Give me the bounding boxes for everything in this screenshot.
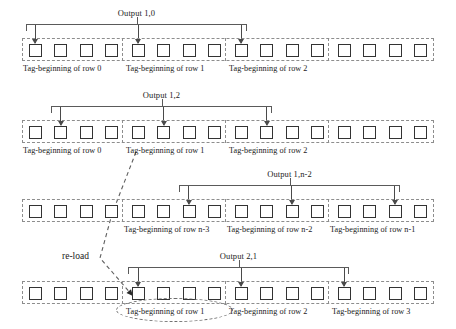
memory-cell[interactable] (311, 44, 324, 57)
memory-cell[interactable] (311, 205, 324, 218)
memory-cell[interactable] (286, 205, 299, 218)
group-separator (122, 38, 123, 61)
memory-cell[interactable] (54, 126, 67, 139)
memory-cell[interactable] (132, 205, 145, 218)
memory-cell[interactable] (338, 44, 351, 57)
memory-cell[interactable] (363, 205, 376, 218)
memory-cell[interactable] (54, 44, 67, 57)
memory-tape (22, 199, 434, 222)
memory-cell[interactable] (286, 126, 299, 139)
memory-cell[interactable] (286, 44, 299, 57)
reload-label: re-load (62, 251, 89, 261)
memory-cell[interactable] (338, 287, 351, 300)
group-separator (328, 281, 329, 304)
memory-cell[interactable] (260, 44, 273, 57)
bracket-tick-left (128, 267, 129, 274)
tag-label: Tag-beginning of row 2 (229, 307, 308, 316)
memory-cell[interactable] (105, 287, 118, 300)
memory-tape (22, 120, 434, 143)
memory-cell[interactable] (132, 126, 145, 139)
group-separator (225, 281, 226, 304)
memory-cell[interactable] (80, 44, 93, 57)
memory-cell[interactable] (363, 44, 376, 57)
group-separator (328, 120, 329, 143)
memory-cell[interactable] (389, 287, 402, 300)
memory-cell[interactable] (183, 205, 196, 218)
memory-cell[interactable] (235, 44, 248, 57)
bracket-tick-left (51, 106, 52, 113)
bracket-tick-right (399, 185, 400, 192)
memory-cell[interactable] (235, 287, 248, 300)
memory-cell[interactable] (208, 287, 221, 300)
memory-cell[interactable] (260, 205, 273, 218)
bracket-stem (137, 17, 138, 24)
bracket-bar (179, 185, 400, 186)
memory-cell[interactable] (54, 287, 67, 300)
highlight-ellipse (116, 298, 233, 322)
memory-cell[interactable] (29, 287, 42, 300)
memory-cell[interactable] (414, 205, 427, 218)
memory-tape (22, 281, 434, 304)
tag-label: Tag-beginning of row 2 (229, 64, 308, 73)
group-separator (225, 199, 226, 222)
memory-cell[interactable] (29, 205, 42, 218)
bracket-stem (239, 260, 240, 267)
bracket-bar (128, 267, 349, 268)
memory-cell[interactable] (80, 287, 93, 300)
memory-cell[interactable] (29, 44, 42, 57)
memory-cell[interactable] (157, 205, 170, 218)
memory-cell[interactable] (389, 126, 402, 139)
memory-cell[interactable] (311, 126, 324, 139)
memory-cell[interactable] (132, 44, 145, 57)
memory-cell[interactable] (29, 126, 42, 139)
tag-label: Tag-beginning of row n-3 (124, 225, 209, 234)
diagram-canvas: Output 1,0Tag-beginning of row 0Tag-begi… (0, 0, 456, 329)
memory-cell[interactable] (80, 205, 93, 218)
memory-cell[interactable] (414, 44, 427, 57)
memory-cell[interactable] (389, 44, 402, 57)
memory-cell[interactable] (414, 287, 427, 300)
memory-cell[interactable] (338, 126, 351, 139)
memory-cell[interactable] (183, 126, 196, 139)
group-separator (225, 120, 226, 143)
tag-label: Tag-beginning of row 2 (229, 146, 308, 155)
memory-cell[interactable] (208, 205, 221, 218)
bracket-bar (26, 24, 247, 25)
bracket-tick-right (348, 267, 349, 274)
memory-cell[interactable] (363, 126, 376, 139)
bracket-stem (162, 99, 163, 106)
tag-label: Tag-beginning of row 0 (23, 146, 102, 155)
tag-label: Tag-beginning of row 0 (23, 64, 102, 73)
memory-cell[interactable] (260, 287, 273, 300)
memory-cell[interactable] (338, 205, 351, 218)
memory-cell[interactable] (286, 287, 299, 300)
memory-cell[interactable] (105, 44, 118, 57)
memory-cell[interactable] (363, 287, 376, 300)
memory-cell[interactable] (80, 126, 93, 139)
tag-label: Tag-beginning of row n-2 (227, 225, 312, 234)
memory-cell[interactable] (105, 126, 118, 139)
group-separator (225, 38, 226, 61)
memory-cell[interactable] (157, 44, 170, 57)
group-separator (122, 199, 123, 222)
bracket-stem (290, 178, 291, 185)
tag-label: Tag-beginning of row 1 (126, 146, 205, 155)
memory-cell[interactable] (235, 126, 248, 139)
bracket-tick-left (179, 185, 180, 192)
memory-cell[interactable] (208, 126, 221, 139)
reload-connector-line (100, 152, 136, 296)
memory-cell[interactable] (208, 44, 221, 57)
group-separator (122, 120, 123, 143)
memory-cell[interactable] (389, 205, 402, 218)
group-separator (328, 38, 329, 61)
memory-cell[interactable] (235, 205, 248, 218)
memory-cell[interactable] (157, 126, 170, 139)
memory-cell[interactable] (311, 287, 324, 300)
memory-cell[interactable] (105, 205, 118, 218)
group-separator (328, 199, 329, 222)
memory-cell[interactable] (54, 205, 67, 218)
memory-cell[interactable] (183, 44, 196, 57)
memory-cell[interactable] (260, 126, 273, 139)
memory-cell[interactable] (414, 126, 427, 139)
memory-cell[interactable] (132, 287, 145, 300)
